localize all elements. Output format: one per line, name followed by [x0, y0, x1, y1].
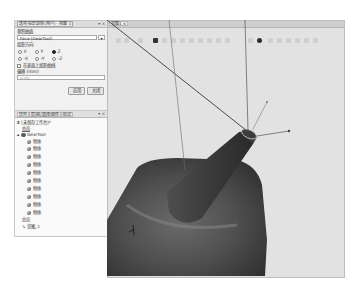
tree-body[interactable]: 物体	[27, 139, 41, 144]
solid-body-icon	[27, 179, 31, 183]
tree-component-geartool[interactable]: ▴ GearTool	[17, 132, 46, 137]
direction-row-2: -X -Y -Z	[18, 55, 98, 60]
tree-root[interactable]: Σ [未保存工作台]*	[17, 120, 51, 125]
tab-markup[interactable]: 标记	[61, 112, 73, 117]
workbench-icon: Σ	[17, 120, 20, 125]
solid-body-icon	[27, 147, 31, 151]
solid-body-icon	[27, 171, 31, 175]
solid-body-icon	[27, 155, 31, 159]
project-checkbox-row[interactable]: 在表面上投影曲线	[17, 62, 55, 68]
radio-neg-x[interactable]: -X	[18, 55, 28, 61]
tree-group-surfaces-2[interactable]: 曲面	[22, 217, 30, 222]
tree-sketch[interactable]: ↳ 草图_1	[22, 224, 40, 229]
dropdown-arrow-icon: ▾	[100, 36, 102, 41]
panel-controls-icon[interactable]: ▾ ×	[98, 112, 105, 116]
axis-lines	[107, 20, 290, 170]
direction-row-1: X Y Z	[18, 48, 98, 53]
radio-neg-y[interactable]: -Y	[35, 55, 44, 61]
solid-body-icon	[27, 203, 31, 207]
axis-handle-icon	[266, 101, 268, 103]
apply-button[interactable]: 应用	[68, 87, 85, 95]
tree-body[interactable]: 物体	[27, 186, 41, 191]
project-checkbox-label: 在表面上投影曲线	[23, 63, 55, 68]
radio-icon	[35, 50, 39, 54]
tab-structure[interactable]: 结构	[17, 112, 29, 117]
offset-label: 偏移 (mm)	[17, 69, 39, 74]
panel-controls-icon[interactable]: ▾ ×	[98, 22, 105, 26]
3d-model-view[interactable]	[107, 20, 343, 276]
tree-body[interactable]: 物体	[27, 154, 41, 159]
component-icon	[21, 133, 26, 137]
radio-selected-icon	[52, 50, 56, 54]
solid-body-icon	[27, 187, 31, 191]
surface-dropdown-button[interactable]: ▾	[98, 35, 105, 40]
close-button[interactable]: 关闭	[87, 87, 104, 95]
options-panel-titlebar[interactable]: 选项·投影到体(用户) - 视图 1 ▾ ×	[15, 21, 107, 28]
tree-body[interactable]: 物体	[27, 210, 41, 215]
tree-body[interactable]: 物体	[27, 202, 41, 207]
tree-body[interactable]: 物体	[27, 162, 41, 167]
surface-label: 参照曲面	[17, 29, 33, 34]
radio-icon	[52, 57, 56, 61]
structure-tabs: 结构 层/组/选择/组件 标记 ▾ ×	[15, 111, 107, 118]
radio-icon	[18, 50, 22, 54]
tree-body[interactable]: 物体	[27, 194, 41, 199]
radio-neg-z[interactable]: -Z	[52, 55, 62, 61]
tree-body[interactable]: 物体	[27, 146, 41, 151]
options-panel: 选项·投影到体(用户) - 视图 1 ▾ × 参照曲面 Face (GearTo…	[14, 20, 108, 111]
tab-layers[interactable]: 层/组/选择/组件	[29, 112, 61, 117]
radio-icon	[18, 57, 22, 61]
surface-field[interactable]: Face (GearTool)	[17, 35, 97, 40]
solid-body-icon	[27, 195, 31, 199]
offset-field[interactable]: 0.00	[17, 75, 105, 80]
direction-label: 投影方向	[17, 42, 33, 47]
expand-icon[interactable]: ▴	[17, 132, 19, 137]
radio-x[interactable]: X	[18, 48, 27, 54]
axis-handle-icon	[288, 130, 290, 132]
radio-icon	[35, 57, 39, 61]
solid-body-icon	[27, 140, 31, 144]
radio-y[interactable]: Y	[35, 48, 43, 54]
tree-group-surfaces[interactable]: 曲面	[22, 126, 30, 131]
structure-panel: 结构 层/组/选择/组件 标记 ▾ × Σ [未保存工作台]* 曲面 ▴ Gea…	[14, 110, 108, 237]
sketch-icon: ↳	[22, 224, 26, 229]
solid-body-icon	[27, 163, 31, 167]
tree-body[interactable]: 物体	[27, 178, 41, 183]
tree-body[interactable]: 物体	[27, 170, 41, 175]
radio-z[interactable]: Z	[52, 48, 61, 54]
options-panel-title: 选项·投影到体(用户) - 视图 1	[17, 21, 73, 27]
solid-body-icon	[27, 211, 31, 215]
checkbox-icon[interactable]	[17, 64, 21, 68]
